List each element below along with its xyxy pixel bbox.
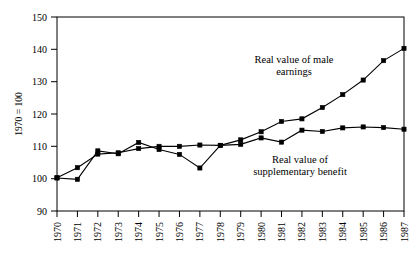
x-tick-label-1977: 1977 [194,222,205,242]
y-tick-label-100: 100 [32,173,47,184]
y-tick-label-120: 120 [32,109,47,120]
data-point [96,149,100,153]
data-point [198,166,202,170]
x-tick-label-1976: 1976 [174,222,185,242]
supplementary-benefit-label-line2: supplementary benefit [253,166,347,177]
x-tick-label-1980: 1980 [256,222,267,242]
x-tick-label-1987: 1987 [399,222,410,242]
data-point [137,140,141,144]
y-tick-label-140: 140 [32,44,47,55]
data-point [381,59,385,63]
data-point [177,152,181,156]
y-tick-label-110: 110 [32,141,47,152]
x-axis-tick-labels: 1970197119721973197419751976197719781979… [52,222,410,242]
y-tick-label-90: 90 [37,206,47,217]
data-point [137,146,141,150]
data-point [361,78,365,82]
data-point [198,143,202,147]
data-point [157,147,161,151]
data-point [402,127,406,131]
y-tick-label-130: 130 [32,76,47,87]
x-tick-label-1973: 1973 [113,222,124,242]
x-tick-label-1983: 1983 [317,222,328,242]
x-tick-label-1982: 1982 [296,222,307,242]
x-tick-label-1984: 1984 [337,222,348,242]
x-tick-label-1986: 1986 [378,222,389,242]
chart-figure: 150 140 130 120 110 100 90 1970 = 100 19… [0,0,420,268]
y-tick-label-150: 150 [32,12,47,23]
data-point [75,166,79,170]
x-tick-label-1975: 1975 [154,222,165,242]
y-axis-ticks [51,17,57,211]
data-point [341,93,345,97]
plot-frame [57,17,404,211]
x-tick-label-1985: 1985 [358,222,369,242]
y-axis-title: 1970 = 100 [14,92,24,136]
data-point [259,130,263,134]
data-point [218,143,222,147]
data-point [320,105,324,109]
supplementary-benefit-label-line1: Real value of [272,154,328,165]
x-axis-ticks [57,211,404,217]
x-tick-label-1978: 1978 [215,222,226,242]
data-point [300,128,304,132]
data-point [75,177,79,181]
data-point [177,144,181,148]
line-chart: 150 140 130 120 110 100 90 1970 = 100 19… [0,0,420,268]
y-axis-tick-labels: 150 140 130 120 110 100 90 [32,12,47,217]
data-point [239,142,243,146]
data-point [381,125,385,129]
data-point [300,117,304,121]
data-point [279,140,283,144]
y-axis-title-group: 1970 = 100 [14,92,24,136]
male-earnings-label-line2: earnings [276,66,312,77]
x-tick-label-1972: 1972 [92,222,103,242]
x-tick-label-1981: 1981 [276,222,287,242]
data-point [239,138,243,142]
data-point [402,46,406,50]
data-point [341,126,345,130]
x-tick-label-1979: 1979 [235,222,246,242]
male-earnings-label-line1: Real value of male [254,54,333,65]
x-tick-label-1970: 1970 [52,222,63,242]
data-point [259,136,263,140]
data-point [55,176,59,180]
x-tick-label-1971: 1971 [72,222,83,242]
data-point [361,125,365,129]
x-tick-label-1974: 1974 [133,222,144,242]
data-point [320,129,324,133]
data-point [116,152,120,156]
data-point [279,119,283,123]
